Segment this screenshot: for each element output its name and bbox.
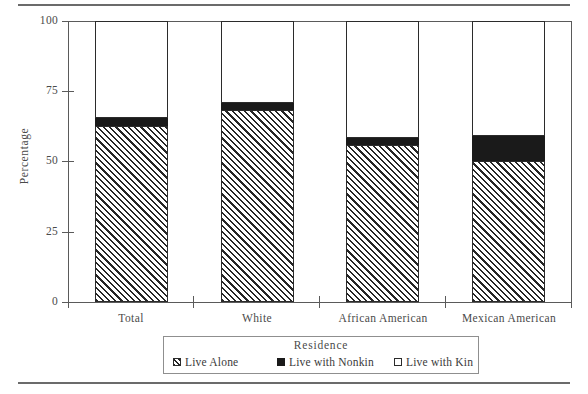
x-axis-tick-2 — [319, 296, 320, 308]
bar-segment-live-with-nonkin — [95, 118, 168, 126]
y-axis-title: Percentage — [18, 96, 30, 216]
empty-square-icon — [394, 358, 402, 366]
legend-item-label: Live with Kin — [406, 356, 473, 368]
bar-total — [95, 21, 168, 302]
bar-white — [221, 21, 294, 302]
x-axis-label-african-american: African American — [338, 312, 427, 324]
hatched-square-icon — [173, 358, 181, 366]
y-axis-tick-100 — [62, 21, 74, 22]
legend-item-live-alone[interactable]: Live Alone — [173, 356, 238, 368]
y-axis-label-75: 75 — [18, 85, 58, 96]
x-axis-tick-0 — [68, 296, 69, 308]
legend-item-label: Live with Nonkin — [289, 356, 374, 368]
bar-segment-live-with-kin — [221, 21, 294, 103]
y-axis-label-25: 25 — [18, 226, 58, 237]
x-axis-line — [68, 302, 572, 303]
legend-item-live-with-nonkin[interactable]: Live with Nonkin — [277, 356, 374, 368]
x-axis-label-total: Total — [118, 312, 143, 324]
x-axis-label-white: White — [242, 312, 272, 324]
y-axis-label-100: 100 — [18, 15, 58, 26]
bar-mexican-american — [472, 21, 545, 302]
x-axis-tick-4 — [571, 296, 572, 308]
y-axis-tick-50 — [62, 161, 74, 162]
bottom-horizontal-rule — [18, 382, 570, 384]
y-axis-label-0: 0 — [18, 296, 58, 307]
bar-segment-live-alone — [472, 161, 545, 302]
stacked-bar-chart-figure: 100 75 50 25 0 Percentage Total White Af… — [0, 0, 588, 394]
y-axis-tick-25 — [62, 232, 74, 233]
x-axis-tick-3 — [445, 296, 446, 308]
filled-square-icon — [277, 358, 285, 366]
bar-segment-live-with-kin — [95, 21, 168, 118]
bar-segment-live-alone — [221, 110, 294, 302]
bar-segment-live-with-nonkin — [346, 138, 419, 145]
bar-segment-live-with-nonkin — [472, 136, 545, 161]
bar-african-american — [346, 21, 419, 302]
chart-legend: Residence Live Alone Live with Nonkin Li… — [163, 336, 479, 374]
bar-segment-live-with-kin — [346, 21, 419, 138]
bar-segment-live-alone — [346, 145, 419, 302]
bar-segment-live-alone — [95, 126, 168, 302]
legend-item-label: Live Alone — [185, 356, 238, 368]
y-axis-line — [68, 21, 69, 303]
x-axis-label-mexican-american: Mexican American — [462, 312, 556, 324]
x-axis-tick-1 — [193, 296, 194, 308]
legend-item-live-with-kin[interactable]: Live with Kin — [394, 356, 473, 368]
legend-title: Residence — [164, 339, 478, 351]
bar-segment-live-with-nonkin — [221, 103, 294, 110]
y-axis-tick-75 — [62, 91, 74, 92]
top-horizontal-rule — [18, 4, 570, 6]
bar-segment-live-with-kin — [472, 21, 545, 136]
